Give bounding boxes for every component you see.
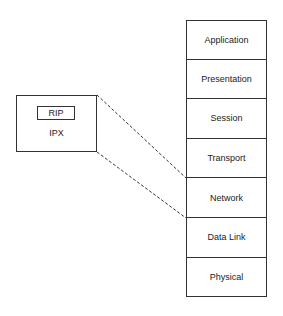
layer-presentation: Presentation — [186, 60, 267, 100]
layer-application: Application — [186, 20, 267, 60]
layer-data-link: Data Link — [186, 218, 267, 258]
rip-box: RIP — [37, 106, 75, 120]
ipx-box: RIP IPX — [16, 95, 97, 152]
layer-session: Session — [186, 99, 267, 139]
ipx-label: IPX — [17, 128, 96, 138]
layer-network: Network — [186, 178, 267, 218]
layer-transport: Transport — [186, 139, 267, 179]
osi-stack: Application Presentation Session Transpo… — [186, 20, 267, 297]
layer-physical: Physical — [186, 258, 267, 298]
